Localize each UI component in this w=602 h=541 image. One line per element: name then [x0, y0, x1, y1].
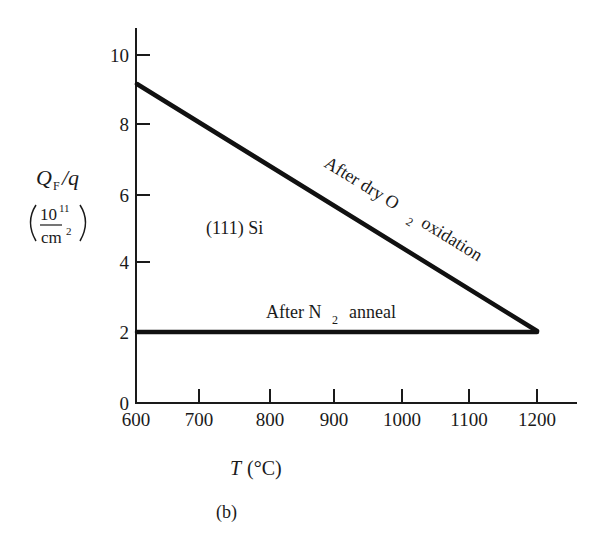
- y-tick-label: 10: [110, 45, 129, 66]
- chart-figure: 10 8 6 4 2 0 600 700 800 900 1000 1100 1…: [0, 0, 602, 541]
- y-axis-slash-q: /q: [60, 165, 79, 190]
- oxidation-label-tail: oxidation: [418, 212, 486, 265]
- x-axis-label: T (°C): [230, 457, 282, 480]
- left-paren: [31, 205, 37, 241]
- anneal-label-tail: anneal: [349, 302, 396, 322]
- y-axis-q: Q: [36, 165, 52, 190]
- y-units-denominator: cm: [41, 228, 62, 247]
- anneal-label-main: After N: [266, 302, 321, 322]
- x-axis-symbol: T: [230, 457, 243, 479]
- y-units-numerator: 10: [40, 205, 57, 224]
- x-tick-label: 900: [320, 409, 349, 430]
- y-tick-labels: 10 8 6 4 2 0: [110, 45, 130, 414]
- x-tick-label: 1200: [518, 409, 556, 430]
- right-paren: [80, 205, 86, 241]
- y-units-numerator-exp: 11: [59, 202, 70, 214]
- sample-annotation: (111) Si: [206, 218, 263, 239]
- x-tick-label: 700: [185, 409, 214, 430]
- y-tick-label: 6: [120, 185, 130, 206]
- x-tick-labels: 600 700 800 900 1000 1100 1200: [122, 409, 556, 430]
- anneal-annotation: After N 2 anneal: [266, 302, 396, 327]
- oxidation-label-sub: 2: [403, 214, 415, 229]
- y-axis-label: Q F /q 10 11 cm 2: [31, 165, 86, 247]
- x-tick-label: 1000: [383, 409, 421, 430]
- series: [137, 84, 537, 332]
- series-dry-o2-oxidation: [137, 84, 537, 331]
- x-tick-label: 800: [256, 409, 285, 430]
- y-units-denominator-exp: 2: [66, 225, 72, 237]
- y-tick-label: 4: [120, 252, 130, 273]
- anneal-label-sub: 2: [332, 313, 338, 327]
- panel-label: (b): [216, 502, 237, 523]
- y-tick-label: 2: [120, 322, 130, 343]
- x-tick-label: 600: [122, 409, 151, 430]
- x-axis-unit: (°C): [247, 457, 282, 480]
- axes: [135, 28, 577, 404]
- x-tick-label: 1100: [450, 409, 487, 430]
- y-tick-label: 8: [120, 114, 130, 135]
- y-axis-sub-f: F: [53, 179, 60, 193]
